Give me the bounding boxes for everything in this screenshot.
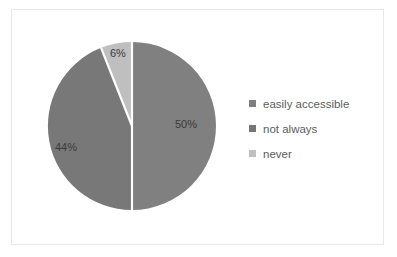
slice-label-never: 6%: [110, 47, 126, 59]
legend-item-easily-accessible[interactable]: easily accessible: [249, 91, 379, 116]
pie-chart: 50% 44% 6% easily accessible not always …: [0, 0, 397, 257]
pie-slice-easily-accessible[interactable]: [132, 42, 216, 210]
legend-item-not-always[interactable]: not always: [249, 116, 379, 141]
legend-marker-icon: [249, 150, 256, 157]
legend-item-label: never: [263, 148, 292, 160]
slice-label-not-always: 44%: [55, 141, 77, 153]
legend-item-label: not always: [263, 123, 317, 135]
legend-marker-icon: [249, 125, 256, 132]
legend: easily accessible not always never: [249, 91, 379, 166]
slice-label-easily-accessible: 50%: [175, 118, 197, 130]
legend-item-never[interactable]: never: [249, 141, 379, 166]
legend-marker-icon: [249, 100, 256, 107]
legend-item-label: easily accessible: [263, 98, 349, 110]
pie-svg: [40, 30, 232, 226]
